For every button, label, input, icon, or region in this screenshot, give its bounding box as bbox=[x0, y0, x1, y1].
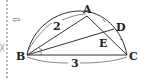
margin-mark: ╳ bbox=[0, 43, 5, 52]
point-label-B: B bbox=[16, 50, 25, 63]
point-label-A: A bbox=[82, 3, 92, 16]
arc-tick-DC bbox=[120, 39, 123, 40]
length-label-BA: 2 bbox=[53, 20, 61, 33]
left-arrow-icon: ⇦ bbox=[12, 14, 20, 25]
length-label-BC: 3 bbox=[71, 57, 79, 70]
angle-mark-B bbox=[40, 51, 41, 55]
point-label-C: C bbox=[129, 50, 138, 63]
geometry-diagram: ⇦ ╳ A B C D E 2 3 bbox=[0, 0, 141, 78]
arc-tick-AD bbox=[103, 19, 105, 22]
circle-arc bbox=[27, 11, 127, 55]
point-label-E: E bbox=[99, 37, 107, 50]
angle-mark-B-tick bbox=[39, 48, 42, 50]
point-label-D: D bbox=[116, 21, 126, 34]
